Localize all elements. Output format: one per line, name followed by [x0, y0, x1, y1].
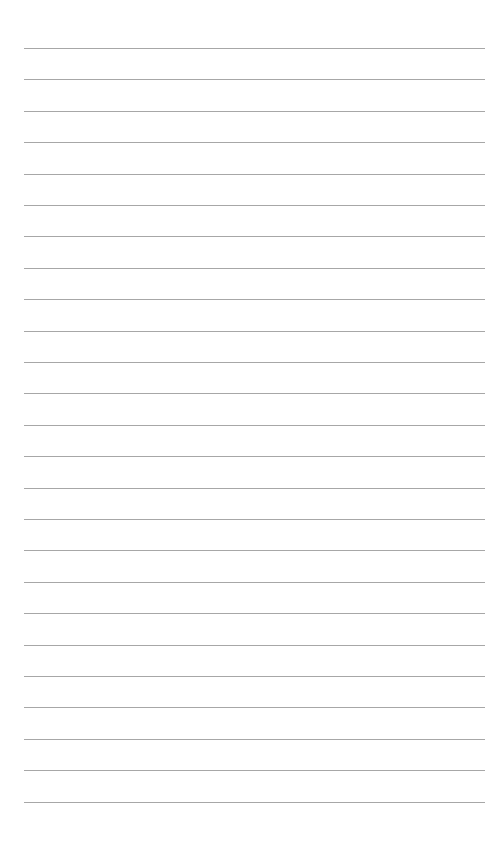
ruled-line: [24, 770, 485, 771]
ruled-line: [24, 488, 485, 489]
ruled-line: [24, 707, 485, 708]
ruled-line: [24, 425, 485, 426]
ruled-line: [24, 205, 485, 206]
ruled-line: [24, 299, 485, 300]
ruled-line: [24, 519, 485, 520]
ruled-line: [24, 739, 485, 740]
ruled-line: [24, 362, 485, 363]
ruled-line: [24, 550, 485, 551]
ruled-line: [24, 456, 485, 457]
ruled-line: [24, 79, 485, 80]
ruled-line: [24, 582, 485, 583]
lined-paper-page: [0, 0, 503, 854]
ruled-line: [24, 645, 485, 646]
ruled-line: [24, 174, 485, 175]
ruled-line: [24, 268, 485, 269]
ruled-line: [24, 48, 485, 49]
ruled-line: [24, 613, 485, 614]
ruled-line: [24, 331, 485, 332]
ruled-line: [24, 236, 485, 237]
ruled-line: [24, 142, 485, 143]
ruled-line: [24, 802, 485, 803]
ruled-line: [24, 676, 485, 677]
ruled-line: [24, 393, 485, 394]
ruled-line: [24, 111, 485, 112]
